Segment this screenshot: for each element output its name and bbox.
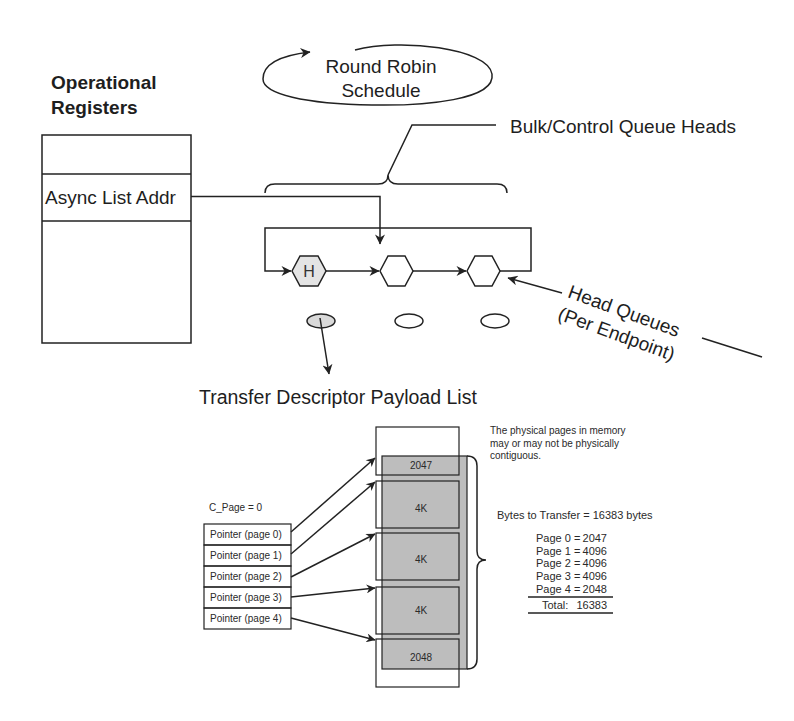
pointer-arrow	[291, 458, 375, 532]
round-robin-line-1: Round Robin	[326, 56, 437, 77]
payload-list-title: Transfer Descriptor Payload List	[199, 386, 477, 408]
async-list-pointer-arrow	[191, 197, 380, 245]
annotation-tail-line	[702, 338, 762, 357]
annotation-arrow	[508, 278, 562, 293]
pointer-arrow	[291, 534, 375, 577]
pointer-label: Pointer (page 1)	[210, 550, 282, 561]
bytes-to-transfer: Bytes to Transfer = 16383 bytes	[497, 509, 653, 521]
pointer-arrows	[291, 458, 375, 640]
pointer-label: Pointer (page 2)	[210, 571, 282, 582]
curly-brace-icon	[265, 175, 507, 193]
queue-head-ring: H	[265, 228, 531, 286]
head-marker-label: H	[303, 263, 315, 280]
page-size-label: 2047	[410, 460, 433, 471]
page-row-label: Page 2 =	[536, 557, 580, 569]
async-list-addr-register: Async List Addr	[45, 187, 177, 208]
total-value: 16383	[576, 599, 607, 611]
heading-line-2: Registers	[51, 97, 138, 118]
heading-line-1: Operational	[51, 72, 157, 93]
page-size-label: 2048	[410, 652, 433, 663]
page-row-value: 2047	[583, 532, 607, 544]
round-robin-line-2: Schedule	[341, 80, 420, 101]
memory-pages: 2047 4K 4K 4K 2048	[376, 427, 486, 687]
register-table-frame	[42, 135, 191, 343]
page-row-label: Page 0 =	[536, 532, 580, 544]
curly-brace-icon	[467, 456, 486, 669]
page-row-value: 4096	[583, 570, 607, 582]
pointer-arrow	[291, 482, 375, 554]
qtd-ellipses	[307, 314, 509, 374]
note-line: The physical pages in memory	[490, 425, 626, 436]
head-queues-annotation: Head Queues (Per Endpoint)	[508, 278, 762, 365]
page-row-label: Page 3 =	[536, 570, 580, 582]
bytes-summary: Bytes to Transfer = 16383 bytes Page 0 =…	[497, 509, 653, 613]
memory-note: The physical pages in memory may or may …	[490, 425, 626, 461]
callout-leader-line	[388, 125, 496, 175]
page-row-value: 4096	[583, 545, 607, 557]
note-line: may or may not be physically	[490, 438, 619, 449]
pointer-label: Pointer (page 3)	[210, 592, 282, 603]
page-row-label: Page 1 =	[536, 545, 580, 557]
page-row-value: 4096	[583, 557, 607, 569]
total-label: Total:	[542, 599, 568, 611]
bulk-control-brace: Bulk/Control Queue Heads	[265, 116, 736, 193]
c-page-label: C_Page = 0	[209, 502, 263, 513]
pointer-list: Pointer (page 0) Pointer (page 1) Pointe…	[204, 524, 291, 629]
page-size-label: 4K	[415, 503, 428, 514]
operational-registers-heading: Operational Registers	[51, 72, 157, 118]
queue-head-hexagon	[380, 256, 413, 286]
page-size-label: 4K	[415, 605, 428, 616]
pointer-arrow	[291, 588, 375, 597]
round-robin-cycle: Round Robin Schedule	[263, 45, 492, 105]
usb-async-schedule-diagram: Operational Registers Async List Addr Ro…	[0, 0, 794, 721]
queue-head-hexagon	[467, 256, 500, 286]
page-row-value: 2048	[583, 583, 607, 595]
bulk-control-label: Bulk/Control Queue Heads	[510, 116, 736, 137]
pointer-label: Pointer (page 4)	[210, 613, 282, 624]
qtd-ellipse	[395, 314, 423, 328]
page-row-label: Page 4 =	[536, 583, 580, 595]
qtd-ellipse	[481, 314, 509, 328]
pointer-label: Pointer (page 0)	[210, 529, 282, 540]
note-line: contiguous.	[490, 450, 541, 461]
register-table: Async List Addr	[42, 135, 191, 343]
page-size-label: 4K	[415, 554, 428, 565]
pointer-arrow	[291, 618, 375, 640]
